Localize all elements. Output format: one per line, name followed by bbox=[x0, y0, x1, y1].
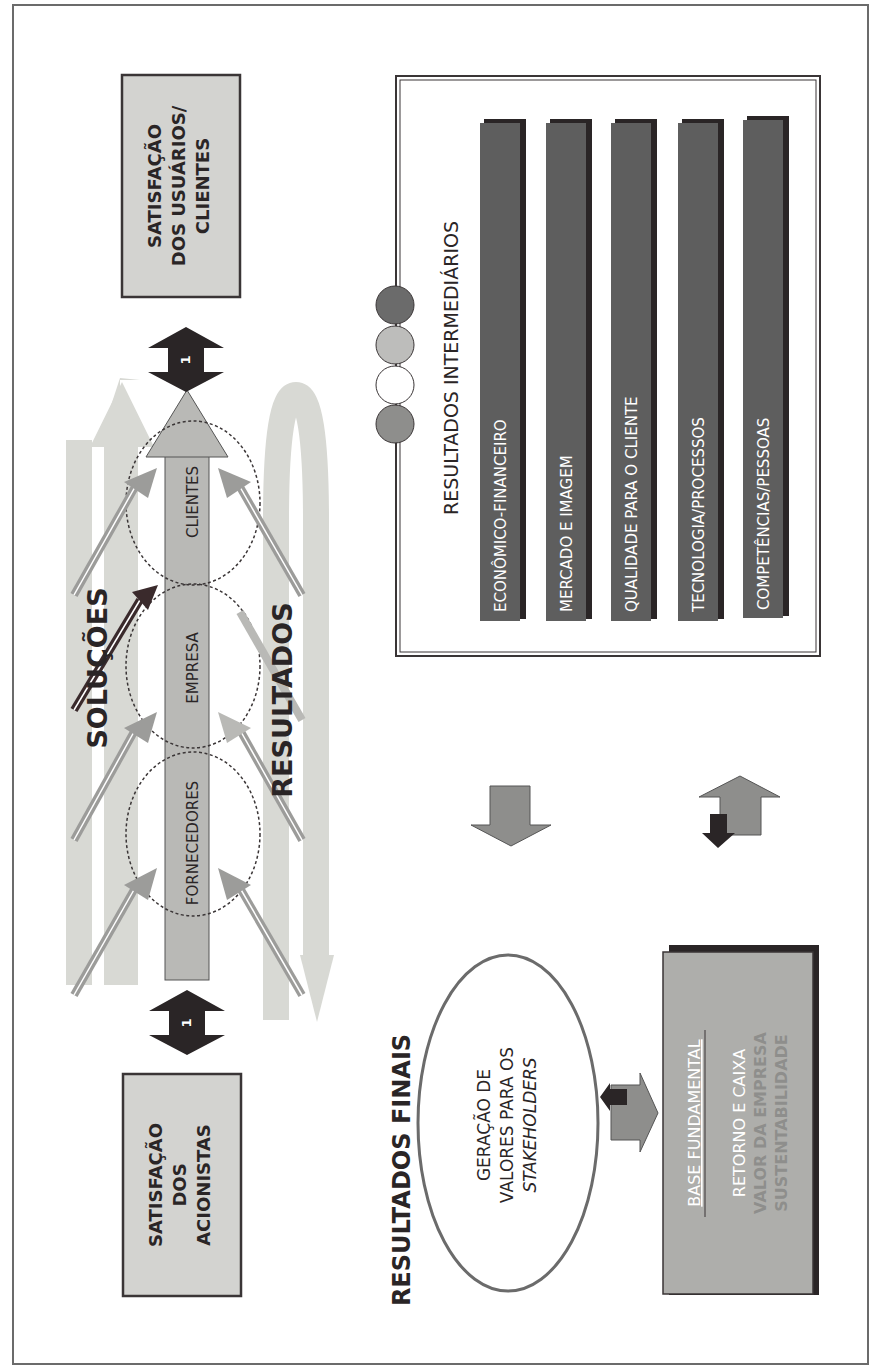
base-fundamental-box: BASE FUNDAMENTAL RETORNO E CAIXA VALOR D… bbox=[663, 945, 819, 1295]
result-bar: COMPETÊNCIAS/PESSOAS bbox=[743, 116, 789, 618]
diagram-canvas: SATISFAÇÃO DOS USUÁRIOS/ CLIENTES SATISF… bbox=[0, 0, 881, 1370]
intermediate-results-title: RESULTADOS INTERMEDIÁRIOS bbox=[440, 221, 462, 515]
base-heading: BASE FUNDAMENTAL bbox=[685, 1039, 704, 1207]
stage-label-empresa: EMPRESA bbox=[184, 632, 202, 704]
shareholder-satisfaction-box: SATISFAÇÃO DOS ACIONISTAS bbox=[123, 1074, 241, 1296]
result-bar: MERCADO E IMAGEM bbox=[546, 119, 592, 621]
stage-label-clientes: CLIENTES bbox=[184, 466, 202, 538]
shareholder-link-number: 1 bbox=[179, 1018, 194, 1027]
base-line-3: SUSTENTABILIDADE bbox=[772, 1034, 791, 1212]
customer-box-line-2: DOS USUÁRIOS/ bbox=[168, 105, 189, 266]
result-bar: TECNOLOGIA/PROCESSOS bbox=[678, 119, 724, 621]
base-line-1: RETORNO E CAIXA bbox=[730, 1049, 749, 1197]
final-results-title: RESULTADOS FINAIS bbox=[388, 1034, 416, 1306]
results-label: RESULTADOS bbox=[267, 602, 298, 797]
bar-label: MERCADO E IMAGEM bbox=[558, 455, 576, 612]
base-line-2: VALOR DA EMPRESA bbox=[751, 1032, 770, 1214]
indicator-circle bbox=[376, 366, 414, 404]
customer-satisfaction-box: SATISFAÇÃO DOS USUÁRIOS/ CLIENTES bbox=[122, 75, 240, 297]
result-bar: ECONÔMICO-FINANCEIRO bbox=[480, 119, 526, 621]
customer-box-line-3: CLIENTES bbox=[192, 138, 213, 234]
result-bar: QUALIDADE PARA O CLIENTE bbox=[611, 119, 657, 621]
stage-label-fornecedores: FORNECEDORES bbox=[184, 781, 202, 905]
shareholder-box-line-2: DOS bbox=[169, 1163, 190, 1206]
bar-label: COMPETÊNCIAS/PESSOAS bbox=[754, 418, 773, 610]
ellipse-line-3: STAKEHOLDERS bbox=[520, 1057, 540, 1192]
indicator-circle bbox=[376, 326, 414, 364]
shareholder-box-line-1: SATISFAÇÃO bbox=[144, 1123, 166, 1247]
shareholder-box-line-3: ACIONISTAS bbox=[193, 1124, 214, 1246]
solutions-label: SOLUÇÕES bbox=[82, 587, 113, 748]
bar-label: TECNOLOGIA/PROCESSOS bbox=[690, 417, 708, 613]
stakeholder-value-ellipse: GERAÇÃO DE VALORES PARA OS STAKEHOLDERS bbox=[418, 955, 598, 1291]
indicator-circle bbox=[376, 405, 414, 443]
bar-label: QUALIDADE PARA O CLIENTE bbox=[623, 396, 641, 612]
customer-box-line-1: SATISFAÇÃO bbox=[143, 124, 165, 248]
indicator-circle bbox=[376, 286, 414, 324]
customer-link-number: 1 bbox=[178, 355, 193, 364]
bar-label: ECONÔMICO-FINANCEIRO bbox=[491, 419, 510, 612]
ellipse-line-2: VALORES PARA OS bbox=[497, 1047, 517, 1203]
ellipse-line-1: GERAÇÃO DE bbox=[473, 1069, 494, 1181]
